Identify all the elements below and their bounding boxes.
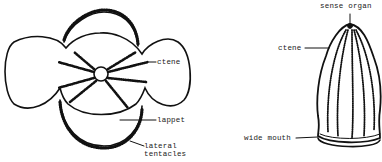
- lobed-ctenophore-figure: [5, 10, 190, 148]
- label-ctene-left: ctene: [157, 58, 181, 66]
- label-lappet: lappet: [157, 116, 185, 124]
- sense-organ-dot: [348, 24, 353, 29]
- bell-ctene-rows: [328, 30, 375, 138]
- label-sense-organ: sense organ: [320, 2, 372, 10]
- bell-ctenophore-figure: [296, 14, 381, 147]
- label-wide-mouth: wide mouth: [244, 134, 291, 142]
- label-lateral-tentacles: lateral tentacles: [144, 142, 186, 158]
- body-outline: [5, 33, 190, 115]
- leader-wide-mouth: [296, 137, 318, 138]
- leader-lateral-tentacles: [130, 141, 144, 146]
- diagram-canvas: [0, 0, 382, 162]
- label-ctene-right: ctene: [278, 44, 302, 52]
- central-statocyst: [94, 67, 108, 81]
